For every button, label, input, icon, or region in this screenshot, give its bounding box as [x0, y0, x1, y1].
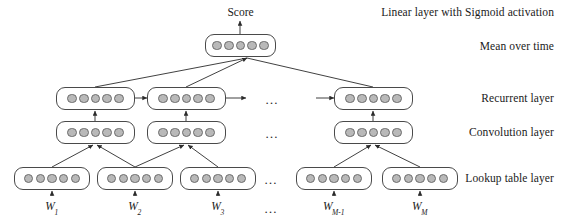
- unit-dot: [36, 174, 46, 184]
- word-subscript: 1: [54, 208, 58, 217]
- lookup-to-conv-5: [375, 145, 420, 167]
- unit-dot: [306, 174, 316, 184]
- unit-dot: [404, 174, 414, 184]
- lookup-box-m1[interactable]: [296, 167, 372, 190]
- unit-dot: [237, 174, 247, 184]
- ellipsis-recurrent: …: [265, 92, 280, 108]
- unit-dot: [102, 94, 112, 104]
- unit-dot: [380, 94, 390, 104]
- unit-dot: [345, 94, 355, 104]
- unit-dot: [107, 174, 117, 184]
- score-label: Score: [213, 6, 268, 18]
- lookup-to-conv-4: [334, 145, 371, 167]
- unit-dot: [329, 174, 339, 184]
- unit-dot: [114, 128, 124, 138]
- layer-label-linear-sigmoid: Linear layer with Sigmoid activation: [381, 6, 554, 19]
- unit-dot: [142, 174, 152, 184]
- unit-dot: [236, 41, 246, 51]
- unit-dot: [380, 128, 390, 138]
- lookup-box-m[interactable]: [382, 167, 458, 190]
- recurrent-box-m[interactable]: [334, 87, 413, 110]
- lookup-to-conv-3: [188, 145, 218, 167]
- unit-dot: [71, 174, 81, 184]
- unit-dot: [212, 41, 222, 51]
- unit-dot: [130, 174, 140, 184]
- word-label-w1: W1: [22, 200, 82, 215]
- unit-dot: [247, 41, 257, 51]
- word-label-wm1: WM-1: [304, 200, 364, 215]
- unit-dot: [213, 174, 223, 184]
- unit-dot: [318, 174, 328, 184]
- lookup-to-conv-1: [97, 145, 135, 167]
- unit-dot: [439, 174, 449, 184]
- unit-dot: [91, 94, 101, 104]
- word-subscript: M: [421, 208, 427, 217]
- unit-dot: [24, 174, 34, 184]
- unit-dot: [341, 174, 351, 184]
- mean-over-time-box[interactable]: [205, 34, 276, 57]
- unit-dot: [427, 174, 437, 184]
- unit-dot: [102, 128, 112, 138]
- word-subscript: 2: [137, 208, 141, 217]
- lookup-to-conv-2: [135, 145, 184, 167]
- unit-dot: [392, 128, 402, 138]
- unit-dot: [193, 94, 203, 104]
- unit-dot: [224, 41, 234, 51]
- unit-dot: [415, 174, 425, 184]
- unit-dot: [357, 94, 367, 104]
- unit-dot: [392, 174, 402, 184]
- unit-dot: [392, 94, 402, 104]
- unit-dot: [79, 94, 89, 104]
- mean-input-1: [186, 58, 247, 87]
- unit-dot: [205, 128, 215, 138]
- unit-dot: [154, 174, 164, 184]
- unit-dot: [193, 128, 203, 138]
- unit-dot: [59, 174, 69, 184]
- unit-dot: [225, 174, 235, 184]
- unit-dot: [353, 174, 363, 184]
- unit-dot: [170, 128, 180, 138]
- layer-label-lookup-table-layer: Lookup table layer: [465, 172, 554, 185]
- word-label-wm: WM: [390, 200, 450, 215]
- ellipsis-convolution: …: [265, 126, 280, 142]
- mean-input-2: [247, 58, 373, 87]
- diagram-canvas: Linear layer with Sigmoid activationMean…: [0, 0, 564, 223]
- word-label-w2: W2: [105, 200, 165, 215]
- unit-dot: [369, 94, 379, 104]
- layer-label-recurrent-layer: Recurrent layer: [481, 92, 554, 105]
- unit-dot: [119, 174, 129, 184]
- unit-dot: [190, 174, 200, 184]
- unit-dot: [345, 128, 355, 138]
- unit-dot: [182, 128, 192, 138]
- recurrent-box-1[interactable]: [56, 87, 135, 110]
- lookup-box-2[interactable]: [97, 167, 173, 190]
- ellipsis-words: …: [264, 201, 279, 217]
- unit-dot: [91, 128, 101, 138]
- recurrent-box-2[interactable]: [147, 87, 226, 110]
- lookup-to-conv-0: [52, 145, 93, 167]
- unit-dot: [158, 128, 168, 138]
- unit-dot: [67, 128, 77, 138]
- unit-dot: [158, 94, 168, 104]
- ellipsis-lookup: …: [264, 172, 279, 188]
- layer-label-mean-over-time: Mean over time: [480, 40, 554, 53]
- layer-label-convolution-layer: Convolution layer: [469, 126, 554, 139]
- word-label-w3: W3: [188, 200, 248, 215]
- unit-dot: [67, 94, 77, 104]
- word-subscript: M-1: [332, 208, 345, 217]
- unit-dot: [205, 94, 215, 104]
- unit-dot: [79, 128, 89, 138]
- unit-dot: [259, 41, 269, 51]
- unit-dot: [202, 174, 212, 184]
- connection-lines: [0, 0, 564, 223]
- unit-dot: [357, 128, 367, 138]
- lookup-box-1[interactable]: [14, 167, 90, 190]
- lookup-box-3[interactable]: [180, 167, 256, 190]
- unit-dot: [369, 128, 379, 138]
- convolution-box-1[interactable]: [56, 121, 135, 144]
- unit-dot: [170, 94, 180, 104]
- unit-dot: [114, 94, 124, 104]
- word-subscript: 3: [220, 208, 224, 217]
- convolution-box-m[interactable]: [334, 121, 413, 144]
- convolution-box-2[interactable]: [147, 121, 226, 144]
